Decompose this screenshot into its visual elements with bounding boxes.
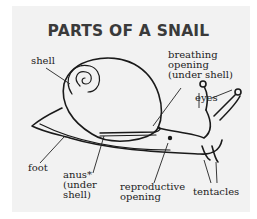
shell-outline	[63, 58, 161, 141]
label-reproductive-opening-2: opening	[120, 192, 161, 202]
label-tentacles: tentacles	[193, 187, 239, 197]
label-shell: shell	[31, 56, 55, 66]
label-foot: foot	[28, 163, 48, 173]
label-breathing-opening-3: (under shell)	[168, 70, 233, 80]
label-eyes: eyes	[195, 93, 218, 103]
snail-diagram-page: PARTS OF A SNAIL	[0, 0, 257, 219]
label-anus-3: shell)	[63, 190, 91, 200]
